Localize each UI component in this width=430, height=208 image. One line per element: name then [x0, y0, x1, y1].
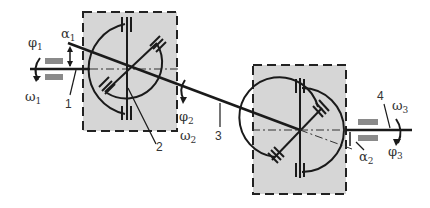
part-number-1: 1 [65, 98, 72, 110]
part-number-4: 4 [377, 90, 384, 102]
label-omega2: ω2 [180, 129, 196, 145]
part-number-2: 2 [156, 141, 163, 153]
label-phi2: φ2 [179, 110, 194, 126]
label-omega3: ω3 [392, 99, 408, 115]
label-alpha1: α1 [61, 27, 76, 43]
leader-4 [384, 104, 390, 128]
left-bearing-bottom [45, 74, 63, 80]
label-alpha2: α2 [359, 150, 374, 166]
label-omega1: ω1 [25, 90, 41, 106]
cardan-joint-diagram: φ1 ω1 α1 φ2 ω2 α2 φ3 ω3 1 2 3 4 [0, 0, 430, 208]
leader-1 [70, 70, 76, 95]
label-phi1: φ1 [28, 36, 43, 52]
left-bearing-top [45, 58, 63, 64]
label-phi3: φ3 [388, 145, 403, 161]
right-bearing-bottom [358, 135, 378, 141]
part-number-3: 3 [215, 130, 222, 142]
right-bearing-top [358, 119, 378, 125]
